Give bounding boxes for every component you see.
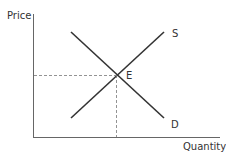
y-axis-label: Price [7, 11, 31, 21]
x-axis-label: Quantity [183, 142, 226, 152]
supply-label: S [172, 29, 178, 39]
demand-label: D [171, 120, 179, 130]
equilibrium-label: E [126, 71, 132, 81]
supply-demand-diagram [0, 0, 226, 162]
